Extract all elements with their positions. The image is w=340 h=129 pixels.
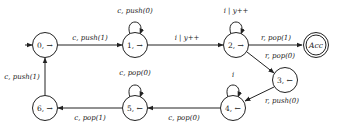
state-3: 3, ← [273,68,298,93]
edge-label-0-1: c, push(1) [72,34,108,42]
edge-label-2-2: i | y++ [224,7,249,15]
edge-label-4-4: i [232,71,234,79]
edge-label-1-1: c, push(0) [117,7,153,15]
state-acc: Acc [304,33,329,58]
state-5-label: 5, ← [127,104,143,113]
state-1-label: 1, → [127,41,143,50]
edge-label-6-0: c, push(1) [4,73,40,81]
state-acc-label: Acc [308,41,324,50]
state-3-label: 3, ← [277,76,293,85]
edge-label-3-4: r, push(0) [265,97,299,105]
state-4: 4, ← [221,96,246,121]
state-0-label: 0, → [37,41,53,50]
state-2: 2, → [224,33,249,58]
edge-label-5-6: c, pop(1) [74,114,106,122]
state-diagram: c, push(1) c, push(0) i | y++ i | y++ r,… [0,0,340,129]
state-5: 5, ← [123,96,148,121]
state-1: 1, → [123,33,148,58]
edge-label-1-2: i | y++ [175,34,200,42]
edge-label-5-5: c, pop(0) [119,69,151,77]
state-6-label: 6, → [37,104,53,113]
edge-label-2-3: r, pop(0) [265,52,295,60]
state-6: 6, → [33,96,58,121]
edge-label-2-acc: r, pop(1) [261,34,291,42]
state-4-label: 4, ← [225,104,241,113]
edge-label-4-5: c, pop(0) [168,114,200,122]
state-0: 0, → [33,33,58,58]
state-2-label: 2, → [228,41,244,50]
